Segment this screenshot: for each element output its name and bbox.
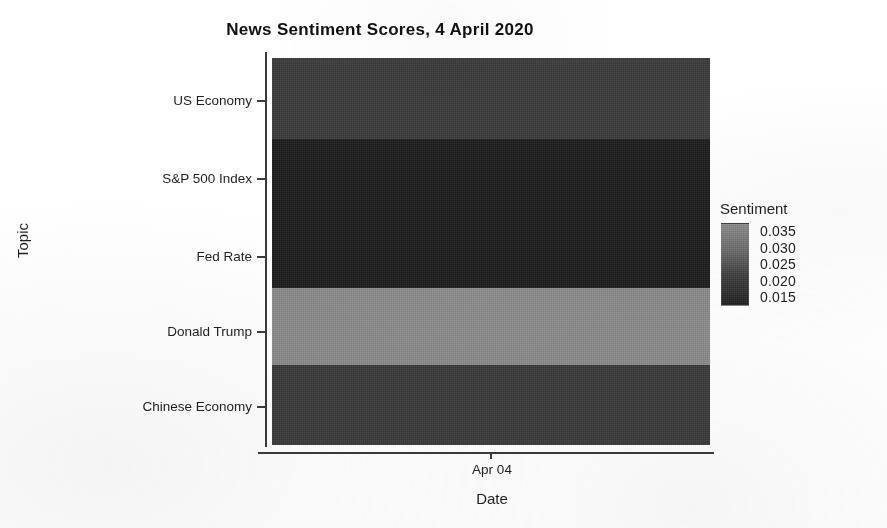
y-axis-tick-label: S&P 500 Index — [162, 171, 252, 186]
y-axis-tick-label: US Economy — [173, 93, 252, 108]
legend-tick-label: 0.030 — [760, 240, 796, 257]
x-axis-title: Date — [430, 490, 554, 507]
legend-title: Sentiment — [716, 200, 881, 217]
heatmap-cell[interactable] — [272, 58, 710, 139]
y-axis-tick — [257, 100, 265, 102]
legend: Sentiment 0.0350.0300.0250.0200.015 — [716, 200, 881, 306]
legend-tick-label: 0.020 — [760, 273, 796, 290]
heatmap-plot-area[interactable] — [272, 58, 710, 445]
heatmap-cell[interactable] — [272, 365, 710, 445]
y-axis-tick — [257, 331, 265, 333]
y-axis-tick-label: Fed Rate — [196, 249, 252, 264]
chart-title: News Sentiment Scores, 4 April 2020 — [0, 20, 760, 40]
legend-body: 0.0350.0300.0250.0200.015 — [716, 223, 881, 306]
y-axis-tick — [257, 178, 265, 180]
y-axis-tick — [257, 256, 265, 258]
y-axis-title: Topic — [14, 201, 31, 281]
legend-colorbar — [721, 223, 749, 306]
heatmap-cell[interactable] — [272, 139, 710, 214]
y-axis-tick — [257, 406, 265, 408]
y-axis-tick-label: Donald Trump — [167, 324, 252, 339]
x-axis-tick — [490, 452, 492, 459]
y-axis-tick-label: Chinese Economy — [142, 399, 252, 414]
x-axis-tick-label: Apr 04 — [440, 462, 544, 477]
legend-tick-label: 0.035 — [760, 223, 796, 240]
heatmap-cell[interactable] — [272, 288, 710, 365]
y-axis-line — [265, 52, 267, 447]
heatmap-cell[interactable] — [272, 214, 710, 288]
legend-tick-label: 0.025 — [760, 256, 796, 273]
x-axis-line — [258, 452, 714, 454]
legend-tick-label: 0.015 — [760, 289, 796, 306]
legend-tick-labels: 0.0350.0300.0250.0200.015 — [760, 223, 796, 306]
